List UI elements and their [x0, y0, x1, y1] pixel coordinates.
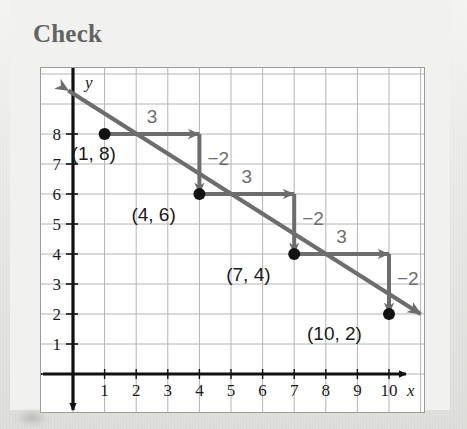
x-axis-name: x — [406, 381, 415, 400]
y-tick-label: 2 — [53, 305, 62, 324]
y-tick-label: 3 — [53, 275, 62, 294]
page-smudge — [14, 408, 50, 428]
y-tick-label: 1 — [53, 335, 62, 354]
x-tick-label: 2 — [132, 381, 141, 400]
step-label: −2 — [397, 268, 419, 289]
x-tick-label: 9 — [353, 381, 362, 400]
page-background: Check 1234567891012345678 (1, 8)(4, 6)(7… — [0, 0, 467, 429]
data-point — [383, 308, 395, 320]
point-coordinate-label: (4, 6) — [131, 204, 175, 225]
point-coordinate-label: (1, 8) — [72, 143, 116, 164]
x-tick-label: 10 — [381, 381, 398, 400]
y-axis-name: y — [83, 73, 93, 92]
coordinate-graph: 1234567891012345678 (1, 8)(4, 6)(7, 4)(1… — [40, 67, 425, 413]
graph-svg: 1234567891012345678 (1, 8)(4, 6)(7, 4)(1… — [41, 68, 424, 412]
y-tick-label: 6 — [53, 185, 62, 204]
y-tick-label: 4 — [53, 245, 62, 264]
point-coordinate-label: (7, 4) — [226, 264, 270, 285]
step-label: 3 — [242, 166, 253, 187]
axis-names: yx — [83, 73, 415, 401]
x-tick-label: 7 — [290, 381, 299, 400]
y-tick-label: 8 — [53, 125, 62, 144]
step-label: 3 — [147, 106, 158, 127]
x-tick-label: 5 — [227, 381, 236, 400]
x-tick-label: 1 — [100, 381, 109, 400]
gridlines — [41, 68, 424, 412]
data-point — [99, 128, 111, 140]
step-label: −2 — [207, 148, 229, 169]
x-tick-label: 6 — [258, 381, 267, 400]
x-tick-label: 4 — [195, 381, 204, 400]
data-point — [193, 188, 205, 200]
step-label: 3 — [336, 226, 347, 247]
x-tick-label: 8 — [322, 381, 331, 400]
y-tick-label: 7 — [53, 155, 62, 174]
axes — [43, 68, 406, 410]
y-tick-label: 5 — [53, 215, 62, 234]
step-label: −2 — [302, 208, 324, 229]
point-coordinate-label: (10, 2) — [307, 323, 362, 344]
x-tick-label: 3 — [164, 381, 173, 400]
data-point — [288, 248, 300, 260]
page-title: Check — [33, 20, 102, 48]
